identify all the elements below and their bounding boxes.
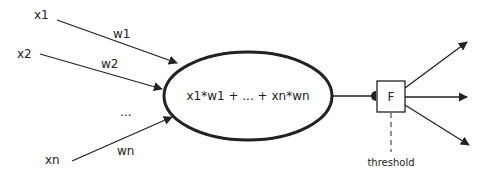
perceptron-diagram: x1 x2 ... xn w1 w2 wn x1*w1 + ... + xn*w… xyxy=(0,0,489,182)
activation-input-dot-icon xyxy=(371,91,376,101)
input-label-x1: x1 xyxy=(34,8,49,22)
input-label-ellipsis: ... xyxy=(120,105,131,119)
input-label-x2: x2 xyxy=(17,47,32,61)
threshold-label: threshold xyxy=(367,157,414,168)
activation-label: F xyxy=(388,90,395,104)
summation-label: x1*w1 + ... + xn*wn xyxy=(186,89,309,103)
output-arrow-1 xyxy=(405,42,467,88)
output-arrow-3 xyxy=(405,105,469,145)
weight-label-w1: w1 xyxy=(113,27,130,41)
input-label-xn: xn xyxy=(45,153,60,167)
weight-label-w2: w2 xyxy=(101,57,118,71)
weight-label-wn: wn xyxy=(117,144,134,158)
